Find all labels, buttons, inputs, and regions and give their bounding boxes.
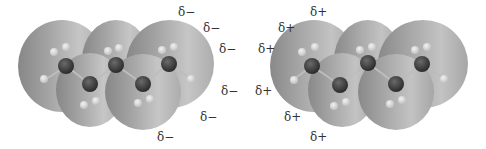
partial-negative-label: δ− <box>157 131 174 143</box>
partial-negative-label: δ− <box>221 85 238 97</box>
partial-positive-label: δ+ <box>310 131 327 143</box>
molecule-diagrams <box>0 0 486 149</box>
left-molecule <box>18 20 214 130</box>
partial-negative-label: δ− <box>178 6 195 18</box>
partial-positive-label: δ+ <box>258 43 275 55</box>
partial-positive-label: δ+ <box>278 22 295 34</box>
partial-positive-label: δ+ <box>284 111 301 123</box>
partial-negative-label: δ− <box>200 111 217 123</box>
partial-positive-label: δ+ <box>310 6 327 18</box>
partial-positive-label: δ+ <box>255 85 272 97</box>
partial-negative-label: δ− <box>219 43 236 55</box>
figure: δ− δ− δ− δ− δ− δ− δ+ δ+ δ+ δ+ δ+ δ+ <box>0 0 486 149</box>
partial-negative-label: δ− <box>203 22 220 34</box>
